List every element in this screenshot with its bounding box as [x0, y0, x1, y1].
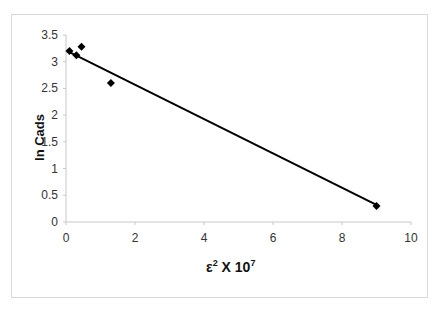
y-tick-label: 2.5 [41, 81, 58, 95]
x-tick-label: 2 [132, 231, 139, 245]
y-axis-label: ln Cads [32, 114, 47, 161]
y-tick-label: 0.5 [41, 188, 58, 202]
y-tick-label: 0 [51, 215, 58, 229]
data-point-diamond [72, 51, 80, 59]
y-tick-label: 3 [51, 55, 58, 69]
x-tick-label: 4 [201, 231, 208, 245]
x-tick-label: 10 [404, 231, 418, 245]
y-tick-label: 3.5 [41, 28, 58, 42]
x-tick-label: 8 [339, 231, 346, 245]
y-tick-label: 1 [51, 162, 58, 176]
trendline [69, 52, 376, 205]
x-tick-label: 0 [63, 231, 70, 245]
y-tick-label: 2 [51, 108, 58, 122]
x-axis-label: ε2 X 107 [206, 258, 255, 275]
data-point-diamond [78, 43, 86, 51]
x-tick-label: 6 [270, 231, 277, 245]
data-point-diamond [107, 79, 115, 87]
